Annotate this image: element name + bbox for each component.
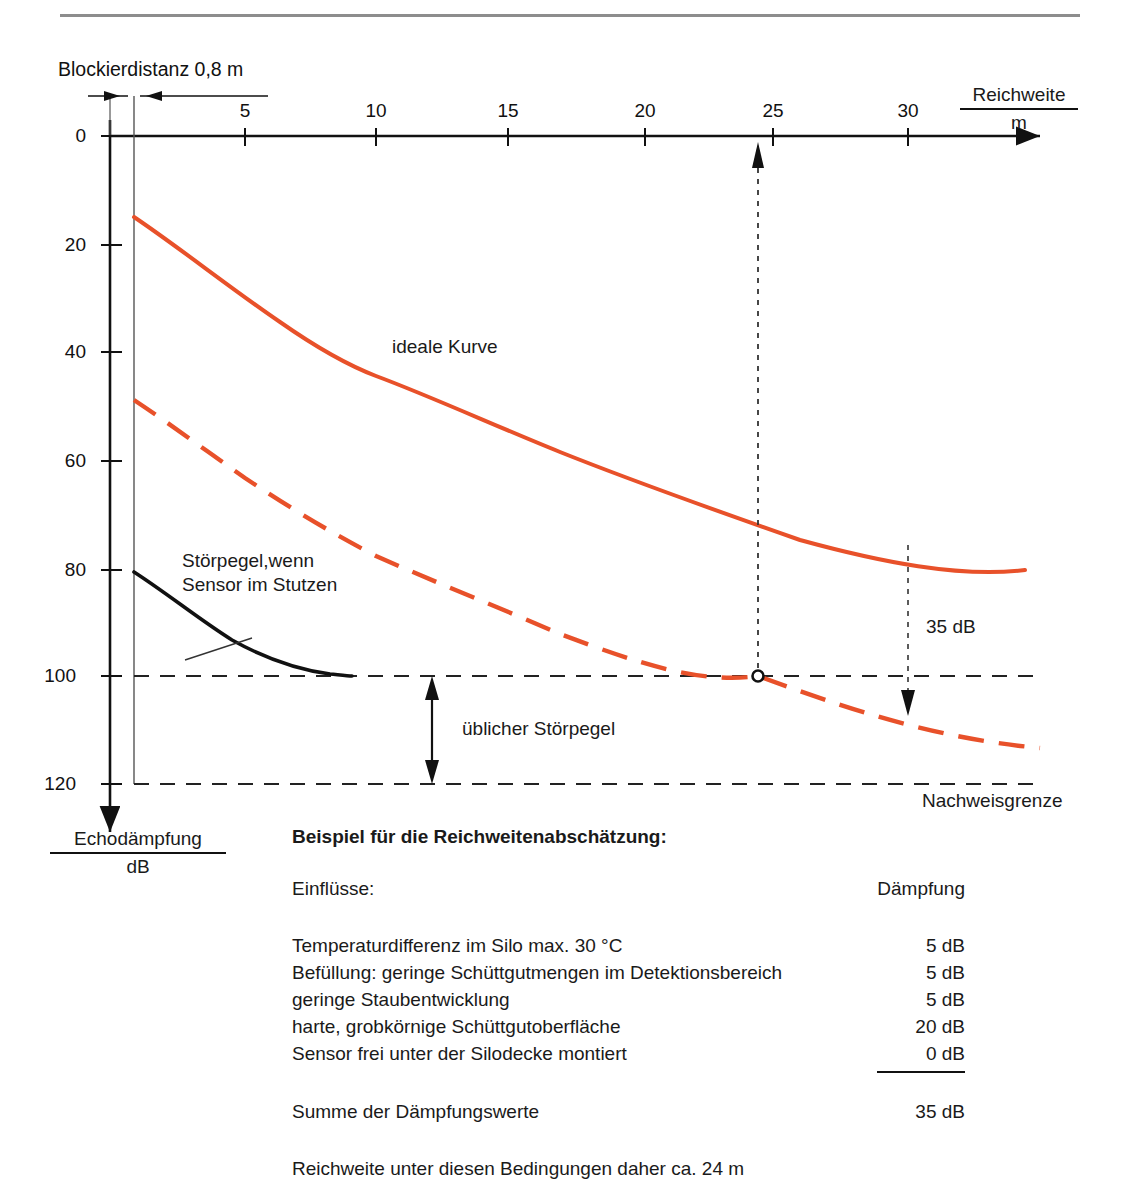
sum-value: 35 dB (877, 1099, 965, 1126)
blocking-arrow-right (104, 91, 120, 101)
y-tick-label-60: 60 (26, 450, 86, 472)
y-tick-label-20: 20 (26, 234, 86, 256)
x-tick-label-5: 5 (215, 100, 275, 122)
y-tick-label-100: 100 (16, 665, 76, 687)
example-title: Beispiel für die Reichweitenabschätzung: (292, 826, 992, 848)
x-axis-title-numerator: Reichweite (960, 84, 1078, 106)
y-axis-title-denominator: dB (50, 856, 226, 878)
example-header-right: Dämpfung (877, 876, 965, 903)
annotation-stoerpegel-line1: Störpegel,wenn (182, 549, 337, 573)
example-conclusion-row: Reichweite unter diesen Bedingungen dahe… (292, 1156, 992, 1179)
y-tick-label-40: 40 (26, 341, 86, 363)
measure-35db-arrow (901, 690, 915, 716)
table-row: geringe Staubentwicklung 5 dB (292, 987, 992, 1014)
y-tick-label-120: 120 (16, 773, 76, 795)
row-value: 5 dB (877, 960, 965, 987)
diagram-page: Blockierdistanz 0,8 m 5 10 15 20 25 30 0… (0, 0, 1126, 1179)
x-tick-label-20: 20 (615, 100, 675, 122)
example-block: Beispiel für die Reichweitenabschätzung:… (292, 826, 992, 1179)
y-axis-title-numerator: Echodämpfung (50, 828, 226, 850)
x-tick-label-30: 30 (878, 100, 938, 122)
measure-ueblicher-arrow-down (425, 760, 439, 784)
y-tick-label-80: 80 (26, 559, 86, 581)
annotation-ideale-kurve: ideale Kurve (392, 336, 498, 358)
chart-canvas (0, 0, 1126, 880)
example-column-headers: Einflüsse: Dämpfung (292, 876, 992, 903)
marker-intersection-24m (753, 671, 764, 682)
row-description: Befüllung: geringe Schüttgutmengen im De… (292, 960, 877, 987)
blocking-arrow-left (146, 91, 162, 101)
row-description: Temperaturdifferenz im Silo max. 30 °C (292, 933, 877, 960)
y-tick-label-0: 0 (26, 125, 86, 147)
x-tick-label-15: 15 (478, 100, 538, 122)
annotation-ueblicher-stoerpegel: üblicher Störpegel (462, 718, 615, 740)
sum-label: Summe der Dämpfungswerte (292, 1099, 877, 1126)
annotation-stoerpegel-line2: Sensor im Stutzen (182, 573, 337, 597)
row-value: 0 dB (877, 1041, 965, 1068)
y-axis-title-rule (50, 852, 226, 854)
row-value: 5 dB (877, 987, 965, 1014)
leader-line-stoerpegel (185, 638, 252, 660)
series-ideale-kurve (134, 217, 1025, 572)
y-axis-title: Echodämpfung dB (50, 828, 226, 878)
row-description: harte, grobkörnige Schüttgutoberfläche (292, 1014, 877, 1041)
example-spacer-1 (292, 903, 992, 933)
dropline-24m-arrow (752, 142, 764, 168)
table-row: Befüllung: geringe Schüttgutmengen im De… (292, 960, 992, 987)
annotation-35db: 35 dB (926, 616, 976, 638)
x-tick-label-25: 25 (743, 100, 803, 122)
x-tick-label-10: 10 (346, 100, 406, 122)
sum-divider-rule (877, 1071, 965, 1073)
x-axis-title: Reichweite m (960, 84, 1078, 134)
conclusion-text: Reichweite unter diesen Bedingungen dahe… (292, 1156, 952, 1179)
table-row: harte, grobkörnige Schüttgutoberfläche 2… (292, 1014, 992, 1041)
annotation-nachweisgrenze: Nachweisgrenze (922, 790, 1062, 812)
blocking-distance-label: Blockierdistanz 0,8 m (58, 58, 243, 81)
row-description: Sensor frei unter der Silodecke montiert (292, 1041, 877, 1068)
row-value: 5 dB (877, 933, 965, 960)
table-row: Sensor frei unter der Silodecke montiert… (292, 1041, 992, 1068)
table-row: Temperaturdifferenz im Silo max. 30 °C 5… (292, 933, 992, 960)
example-header-left: Einflüsse: (292, 876, 877, 903)
row-value: 20 dB (877, 1014, 965, 1041)
annotation-stoerpegel-stutzen: Störpegel,wenn Sensor im Stutzen (182, 549, 337, 597)
row-description: geringe Staubentwicklung (292, 987, 877, 1014)
example-sum-row: Summe der Dämpfungswerte 35 dB (292, 1099, 992, 1126)
x-axis-title-rule (960, 108, 1078, 110)
measure-ueblicher-arrow-up (425, 676, 439, 700)
x-axis-title-denominator: m (960, 112, 1078, 134)
